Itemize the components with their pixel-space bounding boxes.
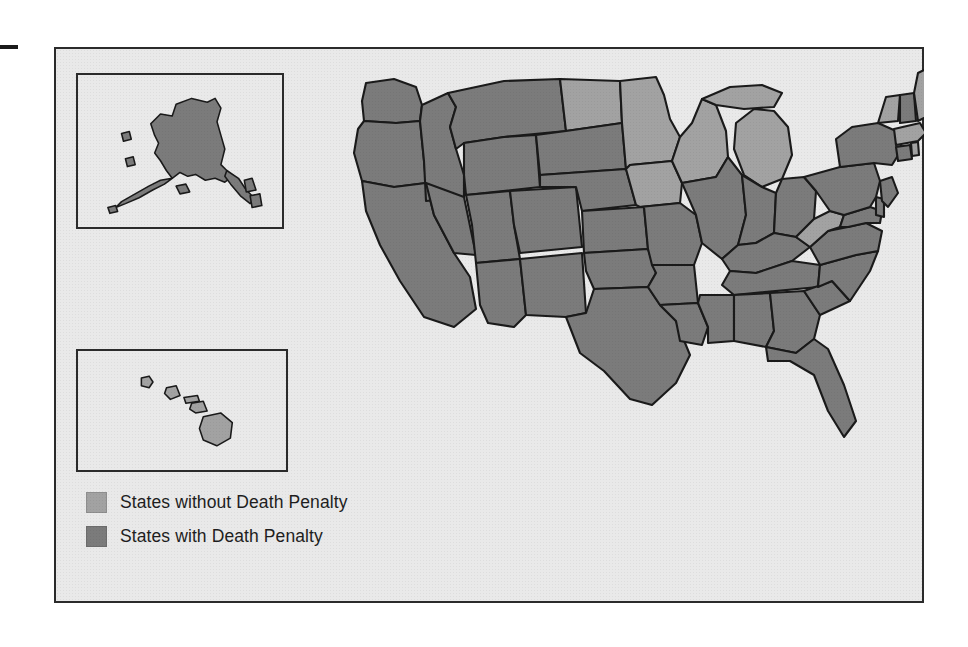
state-oregon[interactable]	[354, 121, 426, 187]
state-oklahoma[interactable]	[584, 249, 656, 289]
alaska-island-small-1[interactable]	[122, 132, 132, 142]
legend-item-without-penalty[interactable]: States without Death Penalty	[86, 485, 416, 519]
legend: States without Death Penalty States with…	[86, 485, 416, 553]
state-missouri[interactable]	[640, 203, 702, 265]
state-minnesota[interactable]	[620, 77, 680, 169]
hawaii-map[interactable]	[78, 351, 286, 470]
alaska-island-se-1[interactable]	[244, 178, 256, 192]
state-wyoming[interactable]	[464, 135, 540, 195]
alaska-aleutians-1[interactable]	[108, 206, 118, 214]
legend-label-without-penalty: States without Death Penalty	[120, 492, 348, 513]
state-vermont[interactable]	[878, 95, 900, 123]
state-connecticut[interactable]	[896, 145, 912, 161]
alaska-inset	[76, 73, 284, 229]
state-north-dakota[interactable]	[560, 79, 622, 131]
state-colorado[interactable]	[510, 187, 582, 253]
hawaii-island-hawaii[interactable]	[199, 413, 232, 446]
state-new-mexico[interactable]	[520, 253, 586, 317]
state-new-york[interactable]	[836, 123, 902, 167]
alaska-island-kodiak[interactable]	[176, 184, 190, 194]
us-map[interactable]	[304, 65, 924, 545]
legend-label-with-penalty: States with Death Penalty	[120, 526, 323, 547]
state-kansas[interactable]	[582, 207, 648, 253]
state-new-jersey[interactable]	[880, 177, 898, 207]
state-florida[interactable]	[766, 339, 856, 437]
alaska-peninsula[interactable]	[116, 178, 173, 207]
state-iowa[interactable]	[626, 161, 682, 207]
hawaii-island-maui[interactable]	[190, 401, 207, 413]
legend-swatch-without-penalty	[86, 492, 107, 513]
alaska-island-se-2[interactable]	[250, 194, 262, 208]
state-massachusetts[interactable]	[894, 123, 924, 145]
figure-frame: States without Death Penalty States with…	[54, 47, 924, 603]
state-washington[interactable]	[362, 79, 422, 123]
state-alabama[interactable]	[734, 293, 774, 347]
legend-item-with-penalty[interactable]: States with Death Penalty	[86, 519, 416, 553]
hawaii-inset	[76, 349, 288, 472]
state-alaska[interactable]	[151, 98, 233, 182]
state-arkansas[interactable]	[648, 265, 698, 305]
state-arizona[interactable]	[476, 259, 526, 327]
alaska-map[interactable]	[78, 75, 282, 227]
state-rhode-island[interactable]	[911, 142, 919, 156]
left-margin-rule	[0, 45, 18, 49]
alaska-island-small-2[interactable]	[125, 157, 135, 167]
hawaii-island-oahu[interactable]	[165, 386, 180, 400]
hawaii-island-kauai[interactable]	[141, 376, 153, 388]
legend-swatch-with-penalty	[86, 526, 107, 547]
